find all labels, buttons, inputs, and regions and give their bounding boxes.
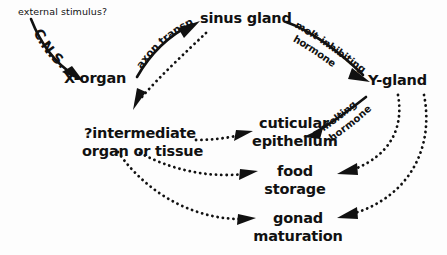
node-gonad-maturation: gonad maturation [252, 210, 344, 245]
node-x-organ: X-organ [64, 70, 126, 87]
node-food-line2: storage [264, 181, 325, 197]
edge-intermediate-to-cuticular [196, 130, 253, 141]
node-intermediate-organ: ?intermediate organ or tissue [82, 125, 198, 160]
edge-label-cns: C.N.S. [30, 26, 70, 71]
node-gonad-line1: gonad [273, 210, 323, 226]
edge-intermediate-to-gonad-maturation [118, 152, 256, 225]
node-intermediate-line1: ?intermediate [84, 125, 196, 141]
node-cuticular-epithelium: cuticular epithelium [252, 115, 336, 150]
node-gonad-line2: maturation [253, 228, 342, 244]
node-food-storage: food storage [258, 163, 332, 198]
edge-molt-inhibiting-hormone: molt-inhibiting hormone [286, 19, 370, 82]
node-sinus-gland: sinus gland [200, 10, 292, 27]
node-intermediate-line2: organ or tissue [82, 143, 203, 159]
node-food-line1: food [277, 163, 313, 179]
edge-sinus-to-intermediate [133, 33, 206, 110]
node-external-stimulus: external stimulus? [18, 6, 107, 17]
pathway-diagram: C.N.S. axon transport molt-inhibiting ho… [0, 0, 447, 255]
node-cuticular-line2: epithelium [252, 133, 338, 149]
diagram-edges-layer: C.N.S. axon transport molt-inhibiting ho… [0, 0, 447, 255]
node-cuticular-line1: cuticular [259, 115, 329, 131]
node-y-gland: Y-gland [368, 72, 427, 89]
